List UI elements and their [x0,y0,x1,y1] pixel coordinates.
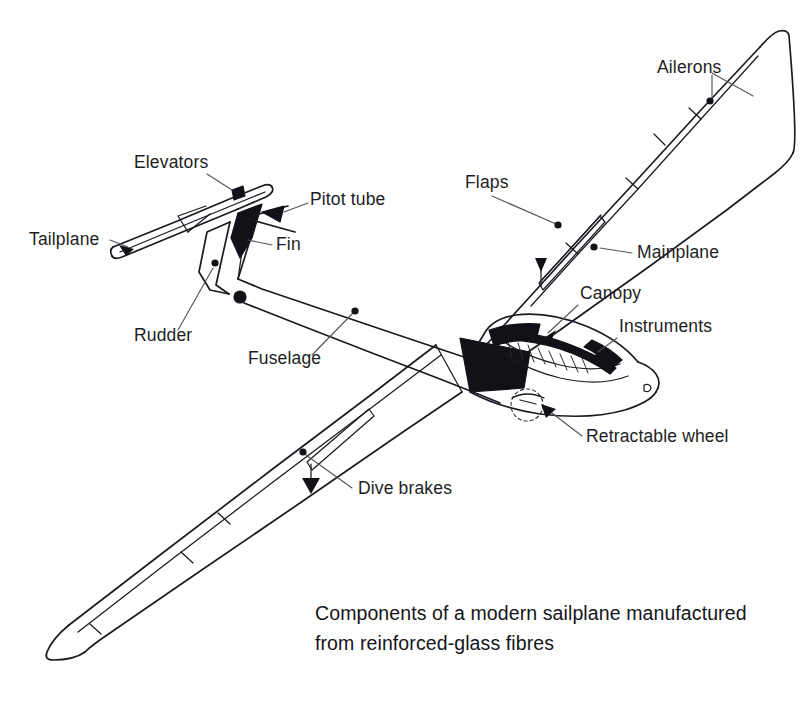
right-wing-hinge-line [531,56,758,306]
label-fin: Fin [276,234,301,254]
pointer-dot-fin [239,235,246,242]
pointer-dot-mainplane [590,243,597,250]
elevator-horn [232,186,245,200]
pointer-dot-ailerons [706,97,713,104]
sailplane-technical-drawing: Ailerons Flaps Mainplane Canopy Instrume… [0,0,808,704]
label-ailerons: Ailerons [657,57,722,77]
label-tailplane: Tailplane [29,229,99,249]
leader-tailplane [110,240,128,247]
nose-lower-outline [470,392,656,416]
label-mainplane: Mainplane [637,242,719,262]
leader-mainplane [600,248,632,253]
label-fuselage: Fuselage [248,348,321,368]
sailplane-diagram-page: Ailerons Flaps Mainplane Canopy Instrume… [0,0,808,704]
aileron-panel-break-inner [654,134,665,145]
label-pitot-tube: Pitot tube [310,189,385,209]
pointer-dot-flaps [554,221,561,228]
figure-caption: Components of a modern sailplane manufac… [315,602,747,654]
nose-tip [638,362,659,392]
left-wing-tip [46,625,85,660]
leader-rudder [178,268,213,330]
leader-flaps [492,196,556,224]
caption-line-2: from reinforced-glass fibres [315,632,554,654]
tailplane-near-tip [111,247,113,256]
pointer-dot-fuselage [351,307,358,314]
left-wing-panel-break-outer [90,624,101,634]
leader-fin [248,240,272,245]
flap-deflection-arrowhead [535,258,547,272]
label-instruments: Instruments [619,316,712,336]
pointer-dot-dive-brakes [299,448,306,455]
label-retractable-wheel: Retractable wheel [586,426,729,446]
pitot-tube-head [262,206,284,222]
left-wing-panel-break-mid [181,552,193,563]
label-elevators: Elevators [134,152,208,172]
right-wing-leading-edge [489,153,793,379]
nose-vent [644,384,651,391]
right-flap-outline [539,216,605,290]
label-dive-brakes: Dive brakes [358,478,452,498]
leader-elevators [207,174,232,190]
leader-retractable-wheel [548,410,582,436]
wheel-axle [520,400,536,404]
caption-line-1: Components of a modern sailplane manufac… [315,602,747,624]
rudder-hinge-line [216,222,230,294]
label-canopy: Canopy [580,283,641,303]
pointer-dot-rudder [211,259,218,266]
label-rudder: Rudder [134,325,192,345]
leader-pitot-tube [284,203,308,212]
tail-skid [234,291,246,303]
label-flaps: Flaps [465,172,509,192]
rudder-outline [199,222,230,294]
labels-group: Ailerons Flaps Mainplane Canopy Instrume… [29,57,729,498]
right-wing-tip [760,31,795,153]
fuselage-upper-line [238,279,470,359]
